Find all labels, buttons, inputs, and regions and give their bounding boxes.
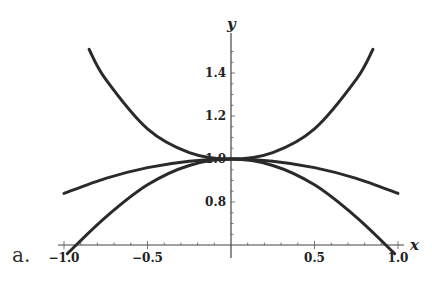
y-tick-label: 0.8 <box>205 195 226 209</box>
y-tick-label: 1.2 <box>205 109 226 123</box>
y-axis-label: y <box>226 15 237 33</box>
x-tick-label: 0.5 <box>304 251 325 265</box>
x-tick-label: −0.5 <box>132 251 163 265</box>
axes: −1.0−0.50.51.00.81.01.21.4 <box>49 33 409 265</box>
line-chart: −1.0−0.50.51.00.81.01.21.4 y x a. <box>0 0 432 289</box>
x-axis-label: x <box>409 236 420 254</box>
panel-label: a. <box>12 243 30 267</box>
x-tick-label: 1.0 <box>388 251 409 265</box>
x-tick-label: −1.0 <box>49 251 80 265</box>
y-tick-label: 1.4 <box>205 66 226 80</box>
